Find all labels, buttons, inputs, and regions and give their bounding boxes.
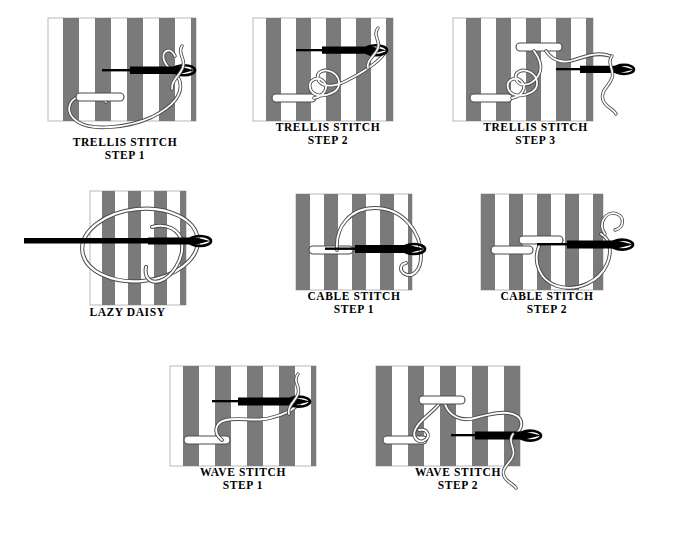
caption-trellis-step-1: TRELLIS STITCH STEP 1 xyxy=(20,136,230,162)
stitch-bar-lower xyxy=(470,94,512,102)
fabric-panel xyxy=(296,194,412,290)
figure-trellis-step-2: TRELLIS STITCH STEP 2 xyxy=(228,10,428,160)
figure-cable-step-1: CABLE STITCH STEP 1 xyxy=(259,188,449,323)
stitch-bar-upper xyxy=(519,236,563,244)
stitch-bar-upper xyxy=(516,43,562,51)
fabric-panel xyxy=(170,366,316,466)
caption-line-1: WAVE STITCH xyxy=(200,466,286,478)
caption-line-1: CABLE STITCH xyxy=(500,290,593,302)
caption-wave-step-2: WAVE STITCH STEP 2 xyxy=(353,466,563,492)
stitch-bar-upper xyxy=(419,396,465,404)
caption-line-2: STEP 2 xyxy=(228,134,428,147)
caption-line-1: LAZY DAISY xyxy=(89,306,165,318)
caption-lazy-daisy: LAZY DAISY xyxy=(20,306,235,319)
caption-trellis-step-2: TRELLIS STITCH STEP 2 xyxy=(228,121,428,147)
caption-wave-step-1: WAVE STITCH STEP 1 xyxy=(148,466,338,492)
figure-wave-step-1: WAVE STITCH STEP 1 xyxy=(148,360,338,500)
figure-trellis-step-3: TRELLIS STITCH STEP 3 xyxy=(428,10,643,160)
caption-line-2: STEP 1 xyxy=(259,303,449,316)
caption-line-2: STEP 3 xyxy=(428,134,643,147)
thread-tail xyxy=(602,213,622,234)
caption-line-1: CABLE STITCH xyxy=(307,290,400,302)
figure-wave-step-2: WAVE STITCH STEP 2 xyxy=(353,360,563,500)
thread-tail xyxy=(602,56,616,114)
caption-trellis-step-3: TRELLIS STITCH STEP 3 xyxy=(428,121,643,147)
figure-cable-step-2: CABLE STITCH STEP 2 xyxy=(447,188,647,323)
caption-line-1: WAVE STITCH xyxy=(415,466,501,478)
caption-line-2: STEP 2 xyxy=(353,479,563,492)
caption-line-1: TRELLIS STITCH xyxy=(276,121,381,133)
caption-cable-step-1: CABLE STITCH STEP 1 xyxy=(259,290,449,316)
figure-lazy-daisy: LAZY DAISY xyxy=(20,185,235,330)
caption-cable-step-2: CABLE STITCH STEP 2 xyxy=(447,290,647,316)
caption-line-1: TRELLIS STITCH xyxy=(483,121,588,133)
stitch-bar-left xyxy=(491,246,533,254)
stitch-bar xyxy=(309,246,353,254)
stitch-bar xyxy=(76,93,124,101)
caption-line-2: STEP 2 xyxy=(447,303,647,316)
caption-line-2: STEP 1 xyxy=(20,149,230,162)
caption-line-1: TRELLIS STITCH xyxy=(73,136,178,148)
stitch-bar xyxy=(272,94,316,102)
figure-trellis-step-1: TRELLIS STITCH STEP 1 xyxy=(20,10,230,175)
fabric-panel xyxy=(376,366,520,466)
diagram-sheet: TRELLIS STITCH STEP 1 xyxy=(0,0,688,548)
caption-line-2: STEP 1 xyxy=(148,479,338,492)
